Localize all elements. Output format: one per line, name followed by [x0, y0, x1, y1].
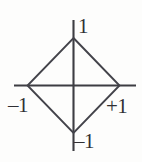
y-axis-positive-tick-label: 1 — [78, 16, 88, 37]
l1-unit-ball-figure: 1 –1 +1 –1 — [0, 0, 142, 162]
x-axis-positive-tick-label: +1 — [106, 96, 127, 117]
diagram-canvas — [0, 0, 142, 162]
x-axis-negative-tick-label: –1 — [8, 95, 28, 116]
y-axis-negative-tick-label: –1 — [74, 131, 94, 152]
